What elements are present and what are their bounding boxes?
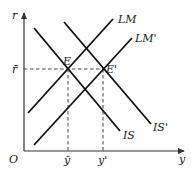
is-prime-label: IS'	[152, 121, 168, 134]
y-axis-label: y	[178, 153, 186, 166]
lm-prime-label: LM'	[134, 32, 157, 45]
y-bar-label: ȳ	[63, 154, 71, 167]
is-curve	[34, 28, 120, 131]
equilibrium-e-label: E	[62, 55, 71, 68]
origin-label: O	[9, 153, 18, 166]
equilibrium-e-prime-label: E'	[105, 63, 117, 76]
lm-label: LM	[117, 13, 137, 26]
is-lm-diagram: LM LM' IS IS' E E' r y O r̄ ȳ y'	[0, 0, 191, 170]
y-prime-label: y'	[97, 154, 107, 167]
r-bar-label: r̄	[12, 63, 18, 76]
is-label: IS	[122, 129, 135, 142]
r-axis-label: r	[12, 9, 18, 22]
